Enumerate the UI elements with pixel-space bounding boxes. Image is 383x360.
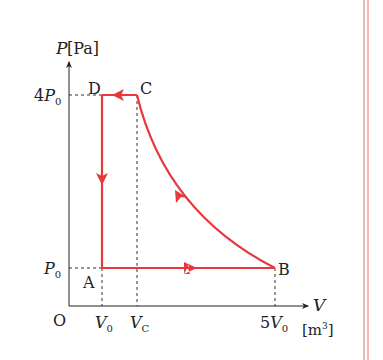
pv-diagram: P [Pa] 4P0 P0 D C A B O V0 VC 5V0 V [m3] [0, 0, 383, 360]
svg-text:[Pa]: [Pa] [67, 39, 99, 58]
svg-text:[m3]: [m3] [302, 321, 334, 339]
svg-text:VC: VC [130, 313, 150, 334]
svg-text:4P0: 4P0 [34, 86, 61, 107]
svg-text:B: B [278, 260, 290, 279]
svg-text:V: V [313, 295, 327, 315]
arrow-right-icon [184, 262, 197, 274]
svg-text:P0: P0 [43, 259, 61, 280]
svg-text:O: O [53, 311, 66, 330]
svg-text:C: C [140, 79, 152, 98]
svg-text:D: D [88, 79, 101, 98]
svg-text:V0: V0 [95, 313, 113, 334]
svg-text:A: A [82, 273, 95, 292]
page-border [364, 0, 368, 360]
cycle-path [102, 95, 275, 268]
guide-lines [69, 95, 275, 306]
svg-text:5V0: 5V0 [260, 313, 288, 334]
